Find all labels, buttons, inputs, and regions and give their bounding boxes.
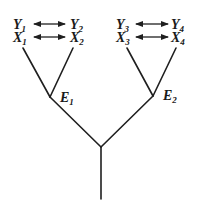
tree-edges xyxy=(23,48,176,199)
edge-x1-e1 xyxy=(23,48,50,97)
label-e2: E2 xyxy=(162,88,177,105)
edge-x3-e2 xyxy=(127,48,153,96)
edge-e2-root xyxy=(101,96,153,147)
label-e1: E1 xyxy=(59,90,74,107)
edge-e1-root xyxy=(50,97,101,147)
phylogeny-diagram: Y1 Y2 X1 X2 E1 Y3 Y4 X3 X4 E2 xyxy=(0,0,199,202)
